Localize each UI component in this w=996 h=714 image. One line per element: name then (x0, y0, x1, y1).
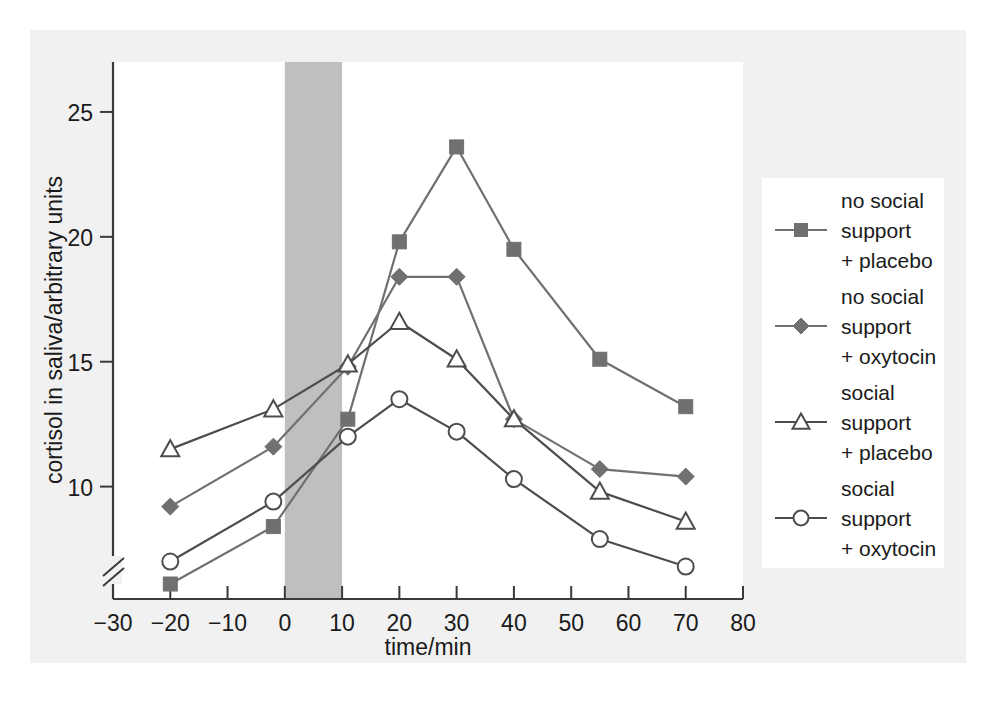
marker-open-circle (391, 391, 407, 407)
marker-filled-square (507, 242, 521, 256)
x-tick-label: 30 (444, 610, 470, 636)
legend-label-line: + oxytocin (841, 345, 936, 368)
y-axis-ticks: 10152025 (67, 100, 113, 501)
marker-filled-square (679, 400, 693, 414)
stress-task-band (285, 62, 342, 599)
y-tick-label: 10 (67, 475, 93, 501)
legend-label-line: + oxytocin (841, 537, 936, 560)
x-tick-label: 20 (387, 610, 413, 636)
marker-filled-square (593, 352, 607, 366)
marker-filled-square (795, 224, 808, 237)
marker-filled-square (341, 412, 355, 426)
x-tick-label: −30 (93, 610, 132, 636)
marker-open-circle (449, 424, 465, 440)
marker-open-circle (162, 554, 178, 570)
legend-label-line: support (841, 219, 911, 242)
y-tick-label: 20 (67, 225, 93, 251)
y-tick-label: 15 (67, 350, 93, 376)
x-tick-label: 10 (329, 610, 355, 636)
x-tick-label: 50 (558, 610, 584, 636)
marker-open-circle (340, 429, 356, 445)
y-axis-title: cortisol in saliva/arbitrary units (41, 176, 67, 484)
legend-label-line: support (841, 507, 911, 530)
legend-label-line: no social (841, 189, 924, 212)
x-tick-label: 70 (673, 610, 699, 636)
chart-legend: no socialsupport+ placebono socialsuppor… (762, 178, 944, 568)
legend-label-line: support (841, 315, 911, 338)
legend-label-line: no social (841, 285, 924, 308)
legend-label-line: social (841, 477, 895, 500)
plot-area-background (113, 62, 743, 599)
marker-filled-square (266, 520, 280, 534)
marker-open-circle (794, 511, 809, 526)
marker-filled-square (450, 140, 464, 154)
marker-filled-square (163, 577, 177, 591)
x-tick-label: −10 (208, 610, 247, 636)
cortisol-line-chart: 10152025 −30−20−1001020304050607080 time… (0, 0, 996, 714)
marker-open-circle (592, 531, 608, 547)
legend-label-line: + placebo (841, 249, 933, 272)
x-tick-label: −20 (151, 610, 190, 636)
x-axis-title: time/min (385, 634, 472, 660)
legend-label-line: support (841, 411, 911, 434)
marker-open-circle (506, 471, 522, 487)
x-tick-label: 40 (501, 610, 527, 636)
y-tick-label: 25 (67, 100, 93, 126)
x-tick-label: 60 (616, 610, 642, 636)
marker-filled-square (392, 235, 406, 249)
marker-open-circle (265, 494, 281, 510)
y-axis-break-icon (103, 556, 124, 586)
legend-label-line: social (841, 381, 895, 404)
legend-label-line: + placebo (841, 441, 933, 464)
x-tick-label: 0 (278, 610, 291, 636)
marker-open-circle (678, 559, 694, 575)
figure-container: 10152025 −30−20−1001020304050607080 time… (0, 0, 996, 714)
x-tick-label: 80 (730, 610, 756, 636)
